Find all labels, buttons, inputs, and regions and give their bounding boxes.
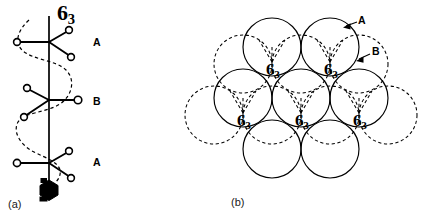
node-layer-a-top <box>14 27 75 61</box>
atom-node <box>68 175 75 182</box>
screw-axis-symbol-icon <box>40 179 58 202</box>
screw-symbol-sub: 3 <box>303 119 309 131</box>
helix-path <box>16 20 71 191</box>
screw-symbol-sub: 3 <box>245 119 251 131</box>
figure-root: 63 A B A (a) <box>0 0 423 221</box>
atom-node <box>24 85 31 92</box>
circle-layer-a <box>243 120 301 178</box>
bond-b-upper-left <box>28 89 49 100</box>
circle-layer-a <box>301 120 359 178</box>
node-layer-a-bottom <box>13 148 74 182</box>
layer-label-b: B <box>93 95 101 107</box>
pointer-a-arrowhead-icon <box>343 23 351 29</box>
panel-b: A B 63 63 63 63 63 (b) <box>200 0 423 221</box>
atom-node <box>68 54 75 61</box>
atom-node <box>66 27 73 34</box>
panel-b-caption: (b) <box>231 196 244 208</box>
atom-node <box>74 96 82 104</box>
atom-node <box>13 159 20 166</box>
bond-a-top-upper-right <box>49 31 68 42</box>
screw-symbol-sub: 3 <box>68 11 75 27</box>
atom-node <box>66 148 73 155</box>
screw-axis-label-6-3: 63 <box>237 112 251 129</box>
layer-label-a-top: A <box>93 36 101 48</box>
screw-axis-label-6-3: 63 <box>295 112 309 129</box>
pointer-label-a: A <box>358 14 366 26</box>
screw-symbol-sub: 3 <box>332 68 338 80</box>
atom-node <box>14 39 21 46</box>
panel-a-graphic <box>0 0 210 221</box>
screw-axis-label-6-3: 63 <box>324 61 338 78</box>
node-layer-b <box>21 85 82 121</box>
screw-axis-label-6-3: 63 <box>57 2 75 24</box>
bond-a-bottom-upper-right <box>49 152 68 163</box>
screw-axis-label-6-3: 63 <box>353 112 367 129</box>
screw-symbol-main: 6 <box>57 0 68 25</box>
bond-a-top-lower-right <box>49 42 70 56</box>
panel-a-caption: (a) <box>8 198 21 210</box>
atom-node <box>21 114 28 121</box>
screw-symbol-sub: 3 <box>274 68 280 80</box>
panel-a: 63 A B A (a) <box>0 0 210 221</box>
screw-symbol-sub: 3 <box>361 119 367 131</box>
pointer-a <box>343 22 357 30</box>
layer-label-a-bottom: A <box>93 156 101 168</box>
pointer-label-b: B <box>372 45 380 57</box>
bond-b-lower-left <box>25 100 49 116</box>
screw-axis-label-6-3: 63 <box>266 61 280 78</box>
panel-b-graphic <box>200 0 423 221</box>
